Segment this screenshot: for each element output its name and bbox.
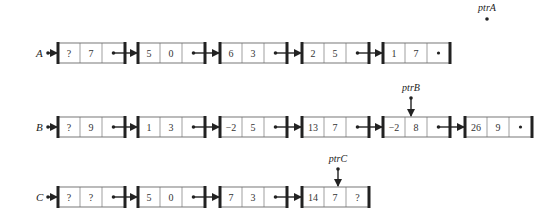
pointer-dot-icon — [485, 17, 489, 21]
list-label: C — [36, 191, 44, 203]
list-c: C??5073147? — [36, 186, 371, 208]
list-label: B — [36, 121, 43, 133]
node-right-bar — [368, 186, 371, 208]
list-b: B?913−25137−28269 — [36, 116, 534, 138]
node-left-bar — [382, 116, 385, 138]
node-value-a: 5 — [147, 48, 152, 59]
list-node: 13 — [137, 116, 220, 138]
list-label: A — [35, 47, 43, 59]
list-node: 50 — [137, 186, 220, 208]
node-next-value: ? — [355, 192, 360, 203]
list-a: A?750632517 — [35, 42, 452, 64]
pointer-ptrc: ptrC — [328, 153, 348, 186]
node-value-a: 6 — [229, 48, 234, 59]
pointer-label: ptrA — [477, 2, 497, 13]
pointer-label: ptrC — [328, 153, 348, 164]
node-left-bar — [57, 42, 60, 64]
node-value-b: 8 — [414, 122, 419, 133]
node-value-b: 5 — [251, 122, 256, 133]
list-node: 50 — [137, 42, 220, 64]
node-left-bar — [301, 116, 304, 138]
node-value-a: 26 — [471, 122, 481, 133]
node-left-bar — [57, 116, 60, 138]
node-left-bar — [219, 116, 222, 138]
node-value-b: 7 — [333, 122, 338, 133]
node-left-bar — [219, 42, 222, 64]
node-left-bar — [137, 186, 140, 208]
null-pointer-dot-icon — [437, 51, 440, 54]
node-right-bar — [531, 116, 534, 138]
node-value-a: 1 — [392, 48, 397, 59]
node-left-bar — [57, 186, 60, 208]
list-node: 25 — [301, 42, 383, 64]
list-node: −28 — [382, 116, 465, 138]
pointer-ptrb: ptrB — [401, 82, 420, 116]
node-value-a: −2 — [226, 122, 237, 133]
pointer-label: ptrB — [401, 82, 420, 93]
node-left-bar — [301, 42, 304, 64]
node-right-bar — [449, 42, 452, 64]
node-value-a: ? — [67, 122, 72, 133]
node-left-bar — [382, 42, 385, 64]
list-node: ?9 — [57, 116, 138, 138]
node-value-b: 7 — [414, 48, 419, 59]
node-left-bar — [464, 116, 467, 138]
pointer-ptra: ptrA — [477, 2, 497, 21]
node-value-a: 1 — [147, 122, 152, 133]
node-value-b: ? — [89, 192, 94, 203]
node-left-bar — [219, 186, 222, 208]
linked-list-diagram: A?750632517B?913−25137−28269C??5073147?p… — [0, 0, 559, 222]
list-node: 137 — [301, 116, 383, 138]
node-left-bar — [137, 42, 140, 64]
node-value-a: 7 — [229, 192, 234, 203]
node-left-bar — [301, 186, 304, 208]
node-value-a: −2 — [389, 122, 400, 133]
node-value-a: 5 — [147, 192, 152, 203]
node-value-a: 14 — [308, 192, 318, 203]
node-left-bar — [137, 116, 140, 138]
node-value-b: 3 — [251, 192, 256, 203]
list-node: 63 — [219, 42, 302, 64]
list-node: 269 — [464, 116, 534, 138]
node-value-b: 3 — [169, 122, 174, 133]
list-node: 73 — [219, 186, 302, 208]
list-node: ?7 — [57, 42, 138, 64]
node-value-a: 13 — [308, 122, 318, 133]
node-value-b: 3 — [251, 48, 256, 59]
list-node: 17 — [382, 42, 452, 64]
list-node: ?? — [57, 186, 138, 208]
node-value-a: ? — [67, 192, 72, 203]
node-value-b: 9 — [496, 122, 501, 133]
node-value-b: 0 — [169, 48, 174, 59]
node-value-b: 0 — [169, 192, 174, 203]
null-pointer-dot-icon — [519, 125, 522, 128]
node-value-b: 9 — [89, 122, 94, 133]
list-node: 147? — [301, 186, 371, 208]
node-value-b: 7 — [333, 192, 338, 203]
node-value-a: 2 — [311, 48, 316, 59]
node-value-b: 7 — [89, 48, 94, 59]
node-value-a: ? — [67, 48, 72, 59]
list-node: −25 — [219, 116, 302, 138]
node-value-b: 5 — [333, 48, 338, 59]
